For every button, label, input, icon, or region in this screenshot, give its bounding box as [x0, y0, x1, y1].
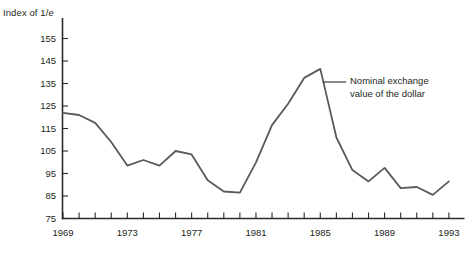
- y-tick-label: 155: [40, 33, 56, 44]
- y-tick-label: 145: [40, 55, 56, 66]
- y-tick-label: 95: [45, 168, 56, 179]
- y-tick-label: 125: [40, 100, 56, 111]
- x-tick-label: 1985: [310, 227, 331, 238]
- y-tick-label: 75: [45, 213, 56, 224]
- x-tick-label: 1981: [245, 227, 266, 238]
- x-tick-label: 1993: [438, 227, 459, 238]
- line-chart-canvas: 7585951051151251351451551969197319771981…: [0, 0, 471, 254]
- exchange-rate-chart-figure: 7585951051151251351451551969197319771981…: [0, 0, 471, 254]
- x-tick-label: 1989: [374, 227, 395, 238]
- x-tick-label: 1969: [52, 227, 73, 238]
- y-axis-title: Index of 1/e: [3, 7, 54, 18]
- x-tick-label: 1973: [117, 227, 138, 238]
- curve-annotation: Nominal exchange value of the dollar: [350, 75, 429, 100]
- x-tick-label: 1977: [181, 227, 202, 238]
- y-axis-title-text: Index of 1/: [3, 7, 48, 18]
- y-tick-label: 105: [40, 145, 56, 156]
- curve-annotation-line2: value of the dollar: [350, 88, 429, 101]
- curve-annotation-line1: Nominal exchange: [350, 75, 429, 88]
- y-tick-label: 85: [45, 190, 56, 201]
- y-tick-label: 135: [40, 78, 56, 89]
- y-axis-title-italic-e: e: [48, 7, 53, 18]
- y-tick-label: 115: [41, 123, 56, 134]
